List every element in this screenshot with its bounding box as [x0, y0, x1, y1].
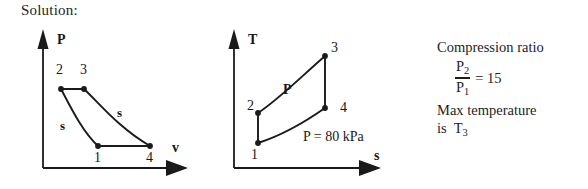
max-temperature-line2: isT3: [437, 120, 587, 139]
ts-y-axis-label: T: [248, 32, 257, 48]
max-temperature-note: Max temperature isT3: [437, 102, 587, 139]
pv-state-point-4: [147, 143, 153, 149]
ts-state-label-3: 3: [331, 40, 338, 56]
pv-state-point-2: [58, 86, 64, 92]
pv-state-point-3: [81, 86, 87, 92]
pv-x-axis-arrowhead: [166, 160, 188, 176]
pv-process-label-s-compression: s: [60, 118, 65, 134]
compression-ratio-label: Compression ratio: [437, 39, 587, 56]
pressure-ratio-fraction: P2 P1: [455, 59, 470, 97]
fraction-numerator: P2: [455, 59, 470, 76]
ts-state-label-1: 1: [251, 147, 258, 163]
notes-block: Compression ratio P2 P1 = 15 Max tempera…: [437, 39, 587, 140]
max-temperature-symbol: T: [454, 120, 463, 136]
ratio-equals-value: = 15: [475, 70, 501, 87]
pv-axes: [38, 29, 189, 176]
pv-process-label-s-expansion: s: [117, 105, 122, 121]
pv-x-axis-label: v: [172, 140, 179, 156]
pv-state-label-3: 3: [80, 62, 87, 78]
pv-y-axis-label: P: [57, 32, 66, 48]
ts-state-point-3: [322, 53, 328, 59]
pv-y-axis-arrowhead: [38, 29, 49, 49]
compression-ratio-equation: P2 P1 = 15: [455, 59, 587, 97]
pv-state-label-2: 2: [56, 62, 63, 78]
fraction-denominator: P1: [455, 80, 470, 97]
max-temperature-subscript: 3: [463, 127, 468, 138]
pv-state-label-1: 1: [94, 150, 101, 166]
ts-pressure-annotation: P = 80 kPa: [303, 129, 364, 145]
pv-cycle-path: [61, 89, 150, 146]
ts-y-axis-arrowhead: [229, 29, 240, 49]
numerator-subscript: 2: [464, 65, 469, 76]
ts-state-label-2: 2: [247, 98, 254, 114]
worksheet-page: Solution:: [0, 0, 588, 189]
max-temperature-prefix: is: [437, 120, 447, 136]
ts-state-point-4: [322, 105, 328, 111]
ts-state-point-2: [255, 110, 261, 116]
ts-x-axis-label: s: [374, 148, 379, 164]
ts-state-label-4: 4: [340, 100, 347, 116]
denominator-subscript: 1: [464, 86, 469, 97]
pv-state-label-4: 4: [146, 150, 153, 166]
denominator-symbol: P: [456, 79, 464, 95]
pv-state-point-1: [95, 143, 101, 149]
max-temperature-line1: Max temperature: [437, 102, 587, 119]
numerator-symbol: P: [456, 58, 464, 74]
ts-isobar-label: P: [283, 82, 292, 98]
ts-state-point-1: [255, 140, 261, 146]
